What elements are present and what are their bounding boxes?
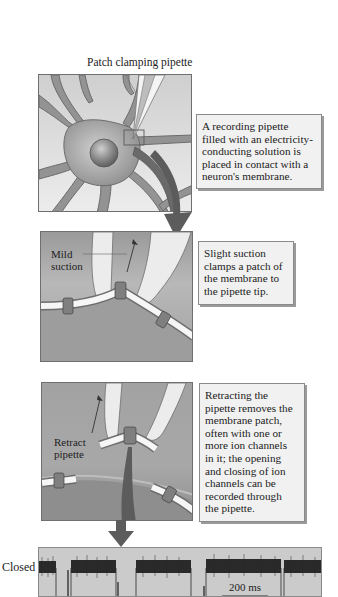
step-3-caption: Retracting the pipette removes the membr… (199, 383, 305, 522)
suction-panel: Mild suction (40, 231, 193, 362)
step-arrow-3-icon (106, 520, 136, 548)
closed-state-label: Closed (2, 561, 35, 573)
scale-bar-label: 200 ms (229, 581, 261, 593)
step-arrow-1-icon (150, 150, 200, 240)
retract-pipette-label: Retract pipette (54, 436, 86, 460)
step-2-caption: Slight suction clamps a patch of the mem… (198, 241, 294, 305)
retract-panel: Retract pipette (41, 382, 193, 521)
trace-plot (39, 548, 322, 597)
step-1-caption: A recording pipette filled with an elect… (196, 114, 322, 189)
mild-suction-label: Mild suction (51, 248, 83, 272)
single-channel-trace: 200 ms (38, 547, 322, 597)
pipette-label: Patch clamping pipette (87, 56, 192, 68)
